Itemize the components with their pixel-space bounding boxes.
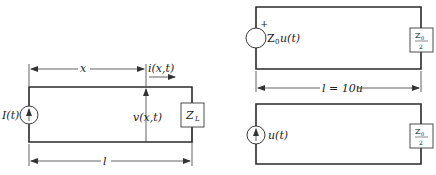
source-subscript: 0 [275,38,279,46]
top-conductor [256,104,421,126]
load-impedance: Z 0 2 [410,28,433,52]
dim-x-label: x [80,62,87,75]
load-impedance: Z L [181,103,204,127]
top-conductor [29,87,192,106]
right-top-circuit: + Z 0 u(t) Z 0 2 l = 10u [246,7,433,95]
voltage-source-icon [246,28,266,48]
length-label: l = 10u [322,82,363,95]
polarity-plus: + [260,18,268,29]
right-bottom-circuit: u(t) Z 0 2 [247,104,433,164]
bottom-conductor [29,124,192,142]
current-source-icon [20,106,38,124]
source-label-rest: u(t) [280,32,300,45]
load-label: Z [185,109,194,122]
load-numerator-sub: 0 [421,131,424,137]
length-label: l [103,155,107,168]
source-label: Z [267,32,275,45]
source-label: I(t) [1,109,19,122]
load-denominator: 2 [419,43,423,50]
load-numerator-sub: 0 [421,35,424,41]
source-label: u(t) [268,129,288,142]
voltage-label: v(x,t) [133,111,162,124]
bottom-conductor [256,48,421,69]
load-impedance: Z 0 2 [410,124,433,148]
top-conductor [256,7,421,28]
current-source-icon [247,126,265,144]
left-circuit: Z L v(x,t) x i(x,t) l I(t) [1,62,204,168]
current-label: i(x,t) [148,62,174,75]
transmission-line-diagrams: Z L v(x,t) x i(x,t) l I(t) + Z 0 u(t) [0,0,436,175]
bottom-conductor [256,144,421,164]
load-subscript: L [194,115,200,123]
load-denominator: 2 [419,139,423,146]
